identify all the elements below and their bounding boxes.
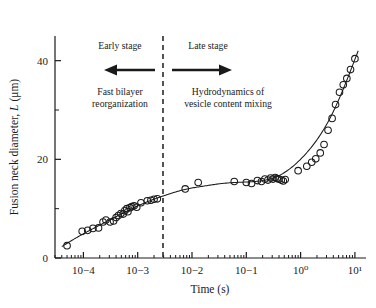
y-axis-title-main: Fusion neck diameter,	[8, 111, 21, 215]
x-tick-label: 10−3	[126, 264, 149, 276]
fusion-neck-diameter-chart: 02040 10−410−310−210−110⁰10¹ Time (s) Fu…	[0, 0, 376, 308]
x-tick-label: 10¹	[348, 264, 362, 276]
early-stage-description-line1: Fast bilayer	[97, 86, 143, 97]
x-tick-label: 10−4	[72, 264, 95, 276]
early-stage-description-line2: reorganization	[92, 98, 148, 109]
figure-container: 02040 10−410−310−210−110⁰10¹ Time (s) Fu…	[0, 0, 376, 308]
x-tick-label: 10−2	[181, 264, 204, 276]
x-axis-title: Time (s)	[191, 283, 230, 296]
y-axis-title: Fusion neck diameter, L (μm)	[8, 79, 21, 216]
y-tick-label: 40	[37, 55, 49, 67]
y-axis-title-units: (μm)	[8, 79, 21, 105]
y-tick-label: 0	[43, 252, 49, 264]
late-stage-description-line2: vesicle content mixing	[184, 98, 272, 109]
x-tick-label: 10⁰	[293, 264, 309, 276]
late-stage-description-line1: Hydrodynamics of	[192, 86, 265, 97]
early-stage-title: Early stage	[98, 40, 141, 51]
y-axis-title-symbol: L	[8, 104, 20, 111]
x-tick-label: 10−1	[235, 264, 258, 276]
y-tick-label: 20	[37, 153, 49, 165]
late-stage-title: Late stage	[188, 40, 228, 51]
